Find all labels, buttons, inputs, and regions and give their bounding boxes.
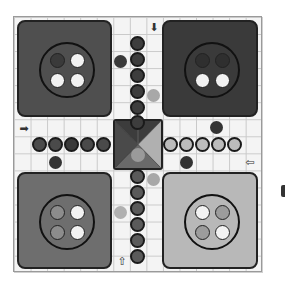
loose-token-light[interactable] — [147, 173, 160, 186]
token-left-path[interactable] — [96, 137, 111, 152]
token-slot-empty[interactable] — [195, 73, 210, 88]
yard-bottom-left[interactable] — [17, 172, 112, 269]
yard-top-right[interactable] — [162, 20, 258, 117]
token-left-path[interactable] — [64, 137, 79, 152]
token-right-path[interactable] — [195, 137, 210, 152]
token-top-path[interactable] — [130, 68, 145, 83]
token-slot-empty[interactable] — [215, 73, 230, 88]
token-slot-filled[interactable] — [195, 53, 210, 68]
token-top-path[interactable] — [130, 84, 145, 99]
token-right-path[interactable] — [163, 137, 178, 152]
token-top-path[interactable] — [130, 115, 145, 130]
ludo-board: ⬇ ➡ ⇦ ⇧ — [13, 16, 262, 272]
token-slot-empty[interactable] — [195, 205, 210, 220]
token-slot-filled[interactable] — [50, 205, 65, 220]
token-slot-empty[interactable] — [70, 225, 85, 240]
start-arrow-down-icon: ⬇ — [148, 21, 160, 33]
yard-ring — [39, 194, 95, 250]
yard-ring — [39, 42, 95, 98]
yard-ring — [184, 42, 240, 98]
token-slot-filled[interactable] — [50, 225, 65, 240]
token-top-path[interactable] — [130, 100, 145, 115]
token-left-path[interactable] — [32, 137, 47, 152]
yard-bottom-right[interactable] — [162, 172, 258, 269]
loose-token-dark[interactable] — [114, 55, 127, 68]
token-bottom-path[interactable] — [130, 201, 145, 216]
token-right-path[interactable] — [211, 137, 226, 152]
token-top-path[interactable] — [130, 36, 145, 51]
start-arrow-right-icon: ➡ — [18, 122, 30, 134]
token-bottom-path[interactable] — [130, 217, 145, 232]
token-slot-empty[interactable] — [70, 205, 85, 220]
token-slot-empty[interactable] — [215, 225, 230, 240]
loose-token-light[interactable] — [147, 89, 160, 102]
token-slot-empty[interactable] — [70, 73, 85, 88]
token-bottom-path[interactable] — [130, 249, 145, 264]
token-right-path[interactable] — [227, 137, 242, 152]
token-slot-filled[interactable] — [195, 225, 210, 240]
token-slot-filled[interactable] — [50, 53, 65, 68]
token-bottom-path[interactable] — [130, 185, 145, 200]
loose-token-light[interactable] — [114, 206, 127, 219]
token-bottom-path[interactable] — [130, 169, 145, 184]
token-slot-empty[interactable] — [70, 53, 85, 68]
yard-top-left[interactable] — [17, 20, 112, 117]
token-top-path[interactable] — [130, 52, 145, 67]
token-slot-filled[interactable] — [215, 53, 230, 68]
token-left-path[interactable] — [48, 137, 63, 152]
token-slot-empty[interactable] — [50, 73, 65, 88]
token-bottom-path[interactable] — [130, 233, 145, 248]
loose-token-dark[interactable] — [210, 121, 223, 134]
yard-ring — [184, 194, 240, 250]
token-left-path[interactable] — [80, 137, 95, 152]
start-arrow-left-icon: ⇦ — [244, 156, 256, 168]
start-arrow-up-icon: ⇧ — [116, 255, 128, 267]
side-edge-marker — [281, 185, 285, 197]
token-right-path[interactable] — [179, 137, 194, 152]
loose-token-dark[interactable] — [180, 156, 193, 169]
token-slot-filled[interactable] — [215, 205, 230, 220]
loose-token-dark[interactable] — [49, 156, 62, 169]
